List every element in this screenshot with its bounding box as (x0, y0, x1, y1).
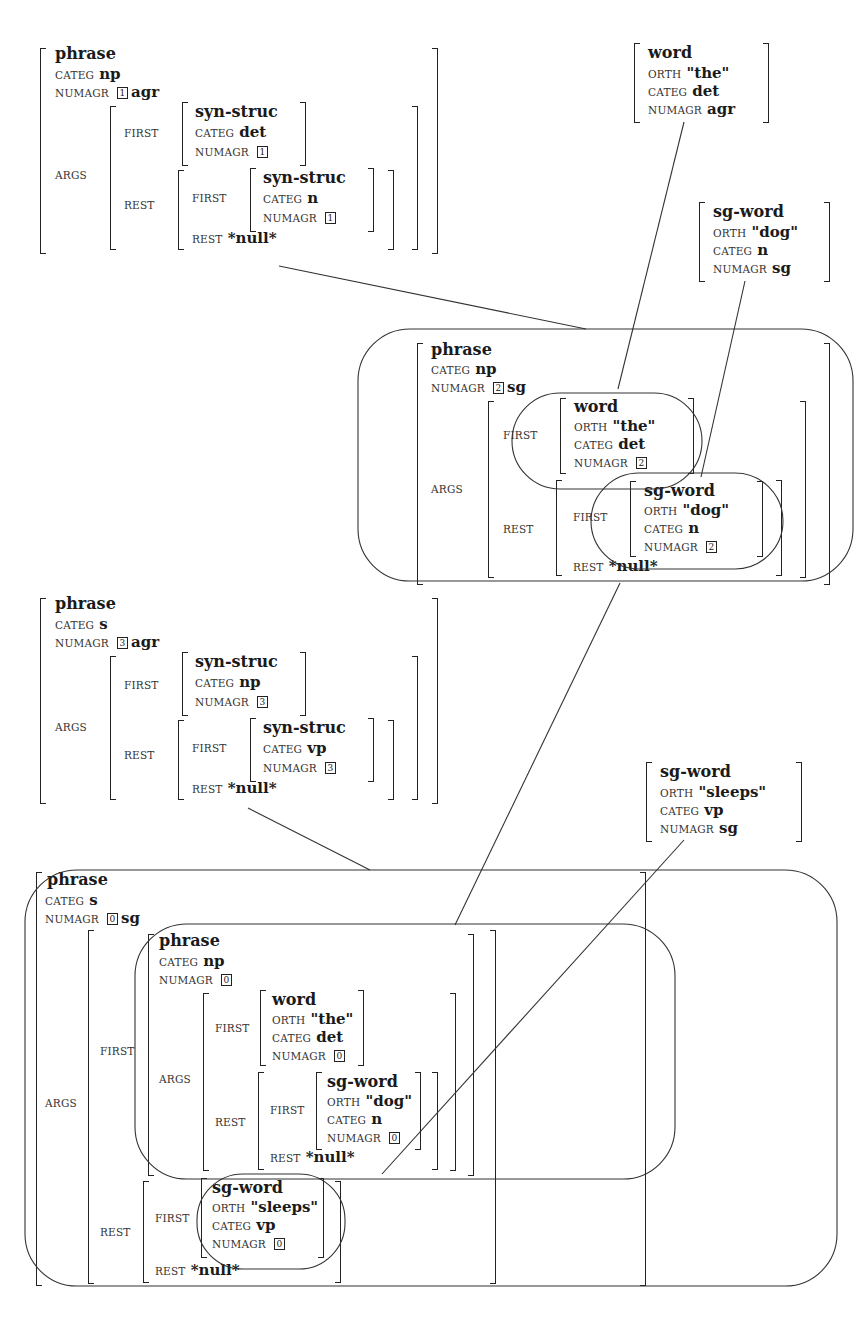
bracket-right (688, 398, 694, 474)
bracket-left (201, 1178, 207, 1258)
feature-rest: REST (503, 524, 534, 535)
bracket-left (646, 762, 652, 842)
bracket-left (36, 872, 42, 1286)
bracket-right (640, 872, 646, 1286)
type-label: syn-struc (263, 170, 346, 186)
type-label: syn-struc (263, 720, 346, 736)
bracket-left (316, 1072, 322, 1150)
bracket-right (824, 202, 830, 282)
type-label: phrase (55, 596, 116, 612)
feature-categ: CATEG n (327, 1111, 382, 1127)
connector-line (279, 266, 586, 329)
bracket-right (412, 656, 418, 800)
feature-first: FIRST (270, 1105, 305, 1116)
type-label: word (574, 399, 618, 415)
feature-categ: CATEG s (55, 616, 108, 632)
feature-numagr: NUMAGR 0 (212, 1235, 288, 1251)
type-label: sg-word (212, 1180, 283, 1196)
bracket-left (143, 1181, 149, 1283)
bracket-left (178, 720, 184, 800)
bracket-right (368, 718, 374, 782)
bracket-right (415, 1072, 421, 1150)
bracket-right (368, 168, 374, 232)
bracket-right (796, 762, 802, 842)
feature-numagr: NUMAGR 0sg (45, 910, 140, 926)
bracket-right (763, 43, 769, 123)
type-label: sg-word (327, 1074, 398, 1090)
feature-orth: ORTH "the" (574, 418, 655, 434)
feature-rest: REST (100, 1227, 131, 1238)
bracket-right (757, 481, 763, 557)
connector-line (455, 583, 620, 925)
feature-numagr: NUMAGR 2 (574, 454, 650, 470)
feature-rest: REST *null* (192, 780, 277, 796)
bracket-left (630, 481, 636, 557)
feature-rest: REST *null* (573, 558, 658, 574)
feature-categ: CATEG n (644, 520, 699, 536)
feature-numagr: NUMAGR 2 (644, 538, 720, 554)
type-label: word (648, 45, 692, 61)
bracket-right (300, 652, 306, 716)
feature-categ: CATEG n (263, 190, 318, 206)
feature-categ: CATEG s (45, 892, 98, 908)
type-label: phrase (55, 46, 116, 62)
bracket-right (824, 343, 830, 585)
bracket-right (358, 990, 364, 1066)
feature-orth: ORTH "the" (272, 1011, 353, 1027)
feature-numagr: NUMAGR 0 (159, 971, 235, 987)
bracket-left (178, 170, 184, 250)
feature-categ: CATEG np (55, 66, 121, 82)
feature-categ: CATEG np (159, 953, 225, 969)
feature-orth: ORTH "the" (648, 65, 729, 81)
feature-rest: REST (215, 1117, 246, 1128)
connector-line (701, 281, 745, 477)
feature-orth: ORTH "dog" (713, 224, 798, 240)
bracket-right (388, 170, 394, 250)
feature-first: FIRST (503, 430, 538, 441)
bracket-left (182, 652, 188, 716)
feature-orth: ORTH "sleeps" (212, 1199, 318, 1215)
connector-line (618, 122, 684, 389)
feature-orth: ORTH "sleeps" (660, 784, 766, 800)
bracket-right (412, 106, 418, 250)
bracket-right (468, 934, 474, 1176)
bracket-right (432, 48, 438, 254)
bracket-left (260, 990, 266, 1066)
feature-numagr: NUMAGR agr (648, 101, 735, 117)
type-label: phrase (159, 933, 220, 949)
bracket-left (417, 343, 423, 585)
bracket-right (300, 102, 306, 166)
bracket-right (335, 1181, 341, 1283)
type-label: syn-struc (195, 654, 278, 670)
type-label: phrase (47, 872, 108, 888)
feature-args: ARGS (431, 484, 463, 495)
type-label: sg-word (713, 204, 784, 220)
connector-overlay (0, 0, 861, 1319)
feature-numagr: NUMAGR 2sg (431, 379, 526, 395)
feature-rest: REST (124, 750, 155, 761)
feature-numagr: NUMAGR 1 (195, 143, 271, 159)
coref-tag: 1 (117, 87, 128, 99)
type-label: sg-word (660, 764, 731, 780)
feature-first: FIRST (192, 193, 227, 204)
feature-categ: CATEG vp (263, 740, 326, 756)
feature-numagr: NUMAGR 0 (327, 1129, 403, 1145)
bracket-left (250, 168, 256, 232)
feature-args: ARGS (159, 1074, 191, 1085)
bracket-left (182, 102, 188, 166)
feature-categ: CATEG vp (212, 1217, 275, 1233)
bracket-left (488, 401, 494, 578)
feature-categ: CATEG n (713, 242, 768, 258)
feature-first: FIRST (215, 1023, 250, 1034)
bracket-right (490, 930, 496, 1284)
feature-categ: CATEG det (574, 436, 645, 452)
feature-first: FIRST (124, 680, 159, 691)
feature-orth: ORTH "dog" (327, 1093, 412, 1109)
feature-numagr: NUMAGR sg (713, 260, 791, 276)
bracket-left (634, 43, 640, 123)
feature-categ: CATEG vp (660, 802, 723, 818)
feature-numagr: NUMAGR 0 (272, 1047, 348, 1063)
bracket-left (560, 398, 566, 474)
feature-numagr: NUMAGR 1agr (55, 84, 159, 100)
feature-args: ARGS (45, 1098, 77, 1109)
